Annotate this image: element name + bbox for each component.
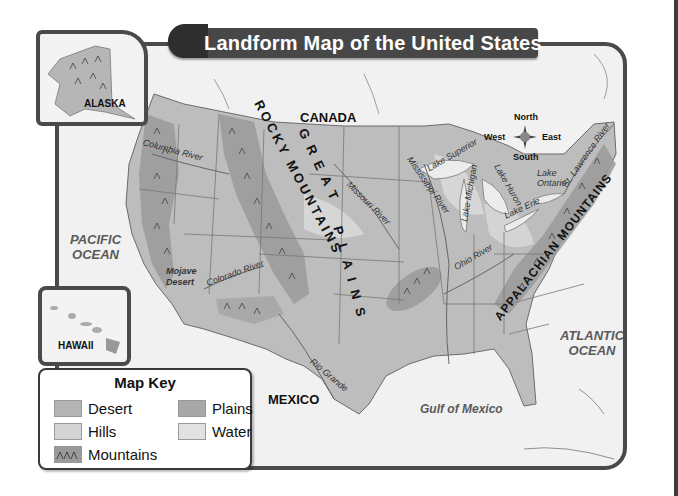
map-title-banner: Landform Map of the United States [168, 24, 538, 58]
caribbean-islands [524, 389, 614, 459]
key-item-desert: Desert [54, 400, 132, 417]
canada-coastline [214, 54, 607, 114]
key-item-hills: Hills [54, 423, 116, 440]
plains-swatch [178, 400, 206, 417]
mexico-label: MEXICO [268, 392, 319, 407]
compass-rose-icon [512, 124, 538, 150]
map-title: Landform Map of the United States [204, 32, 542, 55]
mojave-desert-label: MojaveDesert [166, 266, 197, 288]
desert-swatch [54, 400, 82, 417]
gulf-of-mexico-label: Gulf of Mexico [420, 402, 503, 417]
hawaii-islands [42, 290, 127, 362]
canada-label: CANADA [300, 110, 356, 125]
compass-west: West [484, 132, 505, 142]
hawaii-label: HAWAII [58, 340, 94, 351]
key-item-plains: Plains [178, 400, 253, 417]
alaska-inset: ALASKA [36, 30, 148, 126]
water-swatch [178, 423, 206, 440]
compass-east: East [542, 132, 561, 142]
map-key-title: Map Key [40, 374, 250, 391]
map-key: Map Key Desert Plains Hills Water Mounta… [38, 368, 252, 470]
hawaii-inset: HAWAII [38, 286, 131, 366]
pacific-ocean-label: PACIFICOCEAN [70, 232, 121, 262]
key-item-water: Water [178, 423, 251, 440]
hills-swatch [54, 423, 82, 440]
page-edge [674, 0, 678, 496]
mountain-symbol-icon [55, 447, 81, 462]
key-item-mountains: Mountains [54, 446, 157, 463]
compass-south: South [513, 152, 539, 162]
alaska-label: ALASKA [84, 98, 126, 109]
mountains-swatch [54, 446, 82, 463]
compass-north: North [514, 112, 538, 122]
atlantic-ocean-label: ATLANTICOCEAN [560, 328, 624, 358]
title-banner-hook [168, 24, 208, 58]
